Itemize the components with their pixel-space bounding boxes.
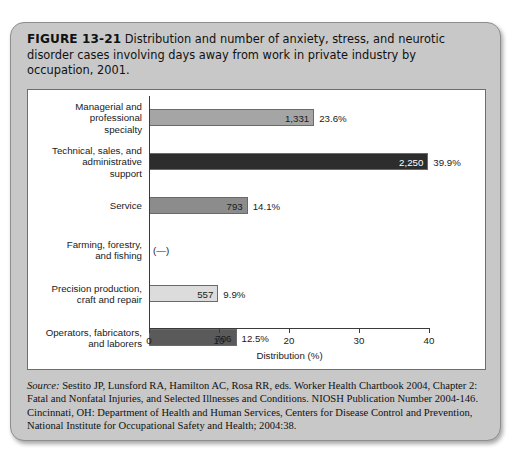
category-label-line: administrative bbox=[28, 156, 142, 167]
bar: 557 bbox=[149, 285, 218, 302]
figure-number: FIGURE 13-21 bbox=[27, 32, 121, 46]
x-axis-tick bbox=[149, 328, 150, 333]
category-label-line: specialty bbox=[28, 124, 142, 135]
bar: 793 bbox=[149, 197, 248, 214]
category-label: Service bbox=[28, 200, 142, 211]
category-label-line: Technical, sales, and bbox=[28, 145, 142, 156]
x-axis-tick-label: 10 bbox=[214, 335, 225, 346]
chart-row: Precision production,craft and repair557… bbox=[28, 272, 485, 316]
category-label-line: Operators, fabricators, bbox=[28, 327, 142, 338]
category-label: Farming, forestry,and fishing bbox=[28, 239, 142, 262]
x-axis-tick-label: 30 bbox=[354, 335, 365, 346]
category-label-line: Service bbox=[28, 200, 142, 211]
bar-count-label: 557 bbox=[197, 288, 213, 299]
bar-percent-label: 23.6% bbox=[319, 112, 346, 123]
bar-count-label: 793 bbox=[227, 200, 243, 211]
figure-caption: FIGURE 13-21 Distribution and number of … bbox=[27, 32, 485, 79]
source-note: Source: Sestito JP, Lunsford RA, Hamilto… bbox=[27, 379, 485, 433]
x-axis-title: Distribution (%) bbox=[149, 350, 430, 361]
figure-card: FIGURE 13-21 Distribution and number of … bbox=[10, 22, 501, 441]
x-axis-tick-label: 20 bbox=[284, 335, 295, 346]
bar-percent-label: 14.1% bbox=[253, 200, 280, 211]
bar-no-data-marker: (—) bbox=[153, 244, 169, 255]
category-label: Precision production,craft and repair bbox=[28, 283, 142, 306]
category-label: Managerial andprofessionalspecialty bbox=[28, 101, 142, 135]
x-axis-tick-label: 0 bbox=[146, 335, 151, 346]
category-label-line: support bbox=[28, 168, 142, 179]
category-label-line: and laborers bbox=[28, 338, 142, 349]
bar-percent-label: 39.9% bbox=[433, 156, 460, 167]
bar-percent-label: 12.5% bbox=[242, 332, 269, 343]
category-label-line: craft and repair bbox=[28, 294, 142, 305]
chart-row: Service79314.1% bbox=[28, 184, 485, 228]
chart-row: Managerial andprofessionalspecialty1,331… bbox=[28, 96, 485, 140]
x-axis-tick bbox=[359, 328, 360, 333]
bar-percent-label: 9.9% bbox=[223, 288, 245, 299]
bar-count-label: 1,331 bbox=[285, 112, 309, 123]
bar: 2,250 bbox=[149, 153, 428, 170]
y-axis-line bbox=[149, 96, 150, 328]
bar: 1,331 bbox=[149, 109, 314, 126]
x-axis-tick bbox=[289, 328, 290, 333]
category-label-line: Precision production, bbox=[28, 283, 142, 294]
chart-plot-panel: Managerial andprofessionalspecialty1,331… bbox=[27, 89, 486, 370]
category-label: Operators, fabricators,and laborers bbox=[28, 327, 142, 350]
category-label-line: and fishing bbox=[28, 250, 142, 261]
category-label: Technical, sales, andadministrativesuppo… bbox=[28, 145, 142, 179]
category-label-line: Managerial and bbox=[28, 101, 142, 112]
x-axis-tick-label: 40 bbox=[424, 335, 435, 346]
x-axis-tick bbox=[219, 328, 220, 333]
source-text: Sestito JP, Lunsford RA, Hamilton AC, Ro… bbox=[27, 380, 478, 431]
category-label-line: professional bbox=[28, 112, 142, 123]
chart-row: Farming, forestry,and fishing(—) bbox=[28, 228, 485, 272]
x-axis-tick bbox=[429, 328, 430, 333]
source-label: Source: bbox=[27, 380, 60, 391]
category-label-line: Farming, forestry, bbox=[28, 239, 142, 250]
bar-count-label: 2,250 bbox=[399, 156, 423, 167]
chart-row: Technical, sales, andadministrativesuppo… bbox=[28, 140, 485, 184]
